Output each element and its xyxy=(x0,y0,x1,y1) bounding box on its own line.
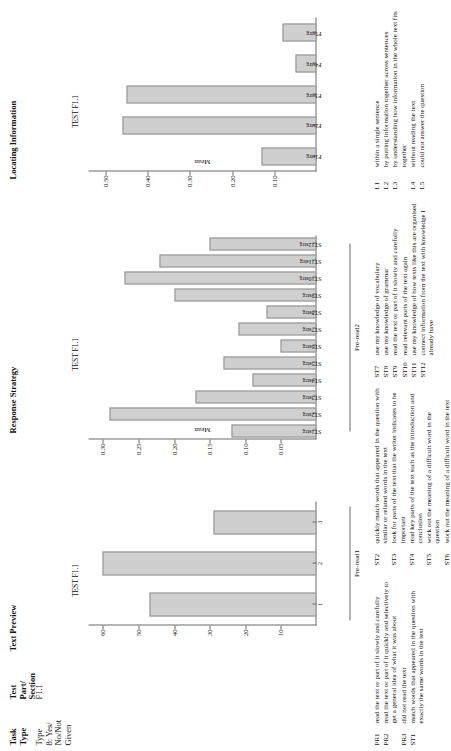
y-tick-label: 50 xyxy=(134,629,141,636)
y-tick-mark xyxy=(280,439,281,443)
y-tick-label: 40 xyxy=(170,629,177,636)
x-tick-label: ST11strg xyxy=(299,257,321,264)
chart-title: TEST F1.1 xyxy=(70,11,79,211)
legend-item: ST7use my knowledge of vocabulary xyxy=(372,199,380,377)
legend-item-text: work out the meaning of a difficult word… xyxy=(424,387,440,543)
chart-title: TEST F1.1 xyxy=(70,229,79,479)
header-response-strategy: Response Strategy xyxy=(8,313,18,433)
bar-group xyxy=(88,501,316,625)
legend-item-code: ST6 xyxy=(442,543,450,565)
y-tick-mark xyxy=(102,439,103,443)
y-tick-mark xyxy=(209,439,210,443)
legend-item: L3by understanding how information in th… xyxy=(390,9,406,189)
bar-slot xyxy=(88,354,316,371)
cell-test-part-value: F1.1 xyxy=(34,659,44,699)
legend-item-code: PR3 xyxy=(399,723,407,745)
bar xyxy=(102,551,316,575)
x-tick: F5strg xyxy=(316,17,336,48)
bar-group xyxy=(88,235,316,439)
x-group-bracket xyxy=(349,243,350,431)
cell-task-type-value: Type8: Yes/No/NotGiven xyxy=(34,705,72,745)
legend-item-text: read the text or part of it quickly and … xyxy=(381,575,397,723)
legend-item-code: ST12 xyxy=(418,355,434,377)
legend-item-code: PR1 xyxy=(372,723,380,745)
x-tick-label: ST8strg xyxy=(302,308,321,315)
legend-item-code: L2 xyxy=(381,167,389,189)
y-tick-mark xyxy=(102,625,103,629)
y-tick-label: 0.25 xyxy=(134,443,141,454)
x-tick-group: 123 Pre-read1 xyxy=(316,501,362,625)
bar-slot xyxy=(88,252,316,269)
legend-item: L2by putting information together across… xyxy=(381,9,389,189)
x-tick: F2strg xyxy=(316,109,336,140)
x-tick-mark xyxy=(312,603,316,604)
x-tick-label: F4strg xyxy=(306,60,321,67)
bar-slot xyxy=(88,286,316,303)
bar xyxy=(174,288,317,300)
x-tick: F4strg xyxy=(316,48,336,79)
x-tick-row: ST1strgST2strgST3strgST4strgST5strgST6st… xyxy=(316,235,343,439)
x-tick-label: ST2strg xyxy=(302,410,321,417)
y-tick-mark xyxy=(105,171,106,175)
x-tick-label: 3 xyxy=(316,501,323,542)
legend-item-code: ST5 xyxy=(424,543,440,565)
chart-text-preview: TEST F1.1 Percent 102030405060 123 Pre-r… xyxy=(62,495,362,665)
chart-title: TEST F1.1 xyxy=(70,495,79,665)
legend-item: PR1read the text or part of it slowly an… xyxy=(372,575,380,745)
bar xyxy=(109,407,316,419)
x-tick-label: 1 xyxy=(316,584,323,625)
x-axis-label: Pre-read1 xyxy=(352,501,360,625)
plot-area: Percent 102030405060 xyxy=(88,501,316,625)
x-tick-label: ST4strg xyxy=(302,376,321,383)
y-tick-mark xyxy=(274,171,275,175)
x-group-bracket xyxy=(349,506,350,620)
y-tick-mark xyxy=(138,625,139,629)
legend-item: ST5work out the meaning of a difficult w… xyxy=(424,387,440,565)
x-tick-label: ST10strg xyxy=(299,274,321,281)
bar-slot xyxy=(88,140,316,171)
bar-slot xyxy=(88,388,316,405)
x-tick-label: ST1strg xyxy=(302,427,321,434)
legend-item-code: L1 xyxy=(372,167,380,189)
y-tick-mark xyxy=(147,171,148,175)
bar-slot xyxy=(88,303,316,320)
y-tick-label: 30 xyxy=(206,629,213,636)
legend-item-code: L4 xyxy=(408,167,416,189)
x-tick-row: F1strgF2strgF3strgF4strgF5strg xyxy=(316,17,336,171)
y-tick-label: 0.20 xyxy=(228,175,235,186)
legend-item-text: match words that appeared in the questio… xyxy=(408,575,424,723)
legend-item-code: ST8 xyxy=(381,355,389,377)
y-tick-label: 0.20 xyxy=(170,443,177,454)
bar-slot xyxy=(88,337,316,354)
y-tick-mark xyxy=(209,625,210,629)
legend-column-3: ST7use my knowledge of vocabularyST8use … xyxy=(372,199,435,377)
legend-item: PR2read the text or part of it quickly a… xyxy=(381,575,397,745)
bar xyxy=(195,390,316,402)
x-tick-row: 123 xyxy=(316,501,323,625)
legend-item-text: read relevant parts of the text again xyxy=(400,199,408,355)
y-tick-label: 0.10 xyxy=(241,443,248,454)
legend-item-text: quickly match words that appeared in the… xyxy=(372,387,388,543)
legend-item-text: use my knowledge of vocabulary xyxy=(372,199,380,355)
legend-item-code: ST7 xyxy=(372,355,380,377)
chart-locating-information: TEST F1.1 Mean 0.100.200.300.400.50 F1st… xyxy=(62,11,362,211)
bar-slot xyxy=(88,17,316,48)
bar-group xyxy=(88,17,316,171)
legend-item-code: L5 xyxy=(417,167,425,189)
x-tick: ST7strg xyxy=(316,320,343,337)
legend-item: PR3did not read the text xyxy=(399,575,407,745)
x-axis-label: Pre-read2 xyxy=(352,235,360,439)
legend-item: ST11use my knowledge of how texts like t… xyxy=(409,199,417,377)
bar-slot xyxy=(88,48,316,79)
y-tick-label: 0.15 xyxy=(206,443,213,454)
bar-slot xyxy=(88,109,316,140)
plot-area: Mean 0.100.200.300.400.50 xyxy=(88,17,316,171)
plot-area: Mean 0.050.100.150.200.250.30 xyxy=(88,235,316,439)
legend-item: ST2quickly match words that appeared in … xyxy=(372,387,388,565)
bar xyxy=(126,85,316,103)
legend-item-code: ST11 xyxy=(409,355,417,377)
x-tick-label: ST9strg xyxy=(302,291,321,298)
x-tick: 2 xyxy=(316,542,323,583)
y-tick-label: 0.10 xyxy=(270,175,277,186)
